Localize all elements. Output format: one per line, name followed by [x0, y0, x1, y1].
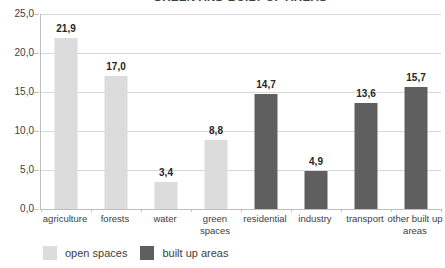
y-tick-label: 10,0 [0, 125, 34, 137]
category-label: green spaces [187, 213, 243, 236]
bar-slot: 3,4 [141, 14, 191, 209]
y-tick-label: 5,0 [0, 164, 34, 176]
bar-slot: 21,9 [41, 14, 91, 209]
bar-value-label: 17,0 [91, 61, 141, 73]
y-tick-label: 15,0 [0, 86, 34, 98]
category-label: industry [287, 213, 343, 225]
legend-label: built up areas [162, 246, 228, 260]
bar-value-label: 21,9 [41, 23, 91, 35]
x-tick-mark [441, 209, 442, 212]
bar-residential [255, 94, 278, 209]
x-tick-mark [191, 209, 192, 212]
x-tick-mark [241, 209, 242, 212]
bar-industry [305, 171, 328, 209]
open-spaces-swatch [43, 246, 57, 260]
x-label-slot: water [140, 213, 190, 239]
x-label-slot: residential [240, 213, 290, 239]
x-tick-mark [41, 209, 42, 212]
bar-slot: 14,7 [241, 14, 291, 209]
x-label-slot: industry [290, 213, 340, 239]
y-tick-label: 0,0 [0, 203, 34, 215]
category-label: transport [337, 213, 393, 225]
legend: open spaces built up areas [43, 246, 228, 260]
x-label-slot: transport [340, 213, 390, 239]
bar-forests [105, 76, 128, 209]
bar-water [155, 182, 178, 209]
x-axis-labels: agricultureforestswatergreen spacesresid… [40, 213, 440, 239]
x-tick-mark [141, 209, 142, 212]
category-label: water [137, 213, 193, 225]
plot-area: 21,917,03,48,814,74,913,615,7 [40, 14, 441, 210]
legend-item-built-up-areas: built up areas [140, 246, 228, 260]
bar-series: 21,917,03,48,814,74,913,615,7 [41, 14, 441, 209]
chart: GREEN AND BUILT UP AREAS 25,020,015,010,… [0, 0, 445, 268]
y-tick-mark [34, 209, 39, 210]
bar-value-label: 8,8 [191, 125, 241, 137]
y-tick-mark [34, 14, 39, 15]
x-tick-mark [341, 209, 342, 212]
bar-slot: 15,7 [391, 14, 441, 209]
chart-title: GREEN AND BUILT UP AREAS [40, 0, 440, 3]
y-tick-mark [34, 53, 39, 54]
y-tick-mark [34, 170, 39, 171]
x-label-slot: forests [90, 213, 140, 239]
y-tick-mark [34, 92, 39, 93]
y-tick-label: 25,0 [0, 8, 34, 20]
category-label: other built up areas [387, 213, 443, 236]
bar-slot: 13,6 [341, 14, 391, 209]
x-tick-mark [391, 209, 392, 212]
legend-item-open-spaces: open spaces [43, 246, 127, 260]
category-label: agriculture [37, 213, 93, 225]
legend-label: open spaces [65, 246, 127, 260]
bar-green-spaces [205, 140, 228, 209]
bar-slot: 17,0 [91, 14, 141, 209]
bar-other-built-up-areas [405, 87, 428, 209]
bar-value-label: 13,6 [341, 88, 391, 100]
x-label-slot: other built up areas [390, 213, 440, 239]
y-tick-label: 20,0 [0, 47, 34, 59]
built-up-areas-swatch [140, 246, 154, 260]
bar-transport [355, 103, 378, 209]
bar-slot: 8,8 [191, 14, 241, 209]
bar-value-label: 3,4 [141, 167, 191, 179]
x-tick-mark [291, 209, 292, 212]
bar-value-label: 15,7 [391, 72, 441, 84]
bar-slot: 4,9 [291, 14, 341, 209]
category-label: residential [237, 213, 293, 225]
bar-agriculture [55, 38, 78, 209]
y-tick-mark [34, 131, 39, 132]
x-label-slot: agriculture [40, 213, 90, 239]
x-label-slot: green spaces [190, 213, 240, 239]
bar-value-label: 14,7 [241, 79, 291, 91]
x-tick-mark [91, 209, 92, 212]
bar-value-label: 4,9 [291, 156, 341, 168]
category-label: forests [87, 213, 143, 225]
